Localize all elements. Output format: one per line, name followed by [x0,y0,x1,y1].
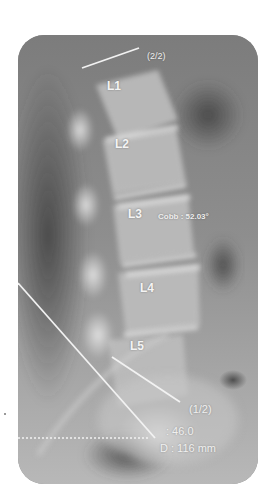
vertebra-label-l2: L2 [115,137,129,151]
angle-value: : 46.0 [166,425,194,437]
vertebra-label-l5: L5 [130,339,144,353]
xray-image [18,35,258,484]
line-tag-upper: (2/2) [147,51,166,61]
xray-image-frame: L1 L2 L3 L4 L5 Cobb : 52.03° (2/2) (1/2)… [18,35,258,484]
vertebra-label-l1: L1 [107,79,121,93]
cobb-angle-label: Cobb : 52.03° [158,212,209,221]
distance-value: D : 116 mm [160,442,216,454]
vertebra-label-l4: L4 [140,281,154,295]
vertebra-label-l3: L3 [128,207,142,221]
edge-marker-dot [4,413,6,415]
line-tag-lower: (1/2) [189,403,212,415]
